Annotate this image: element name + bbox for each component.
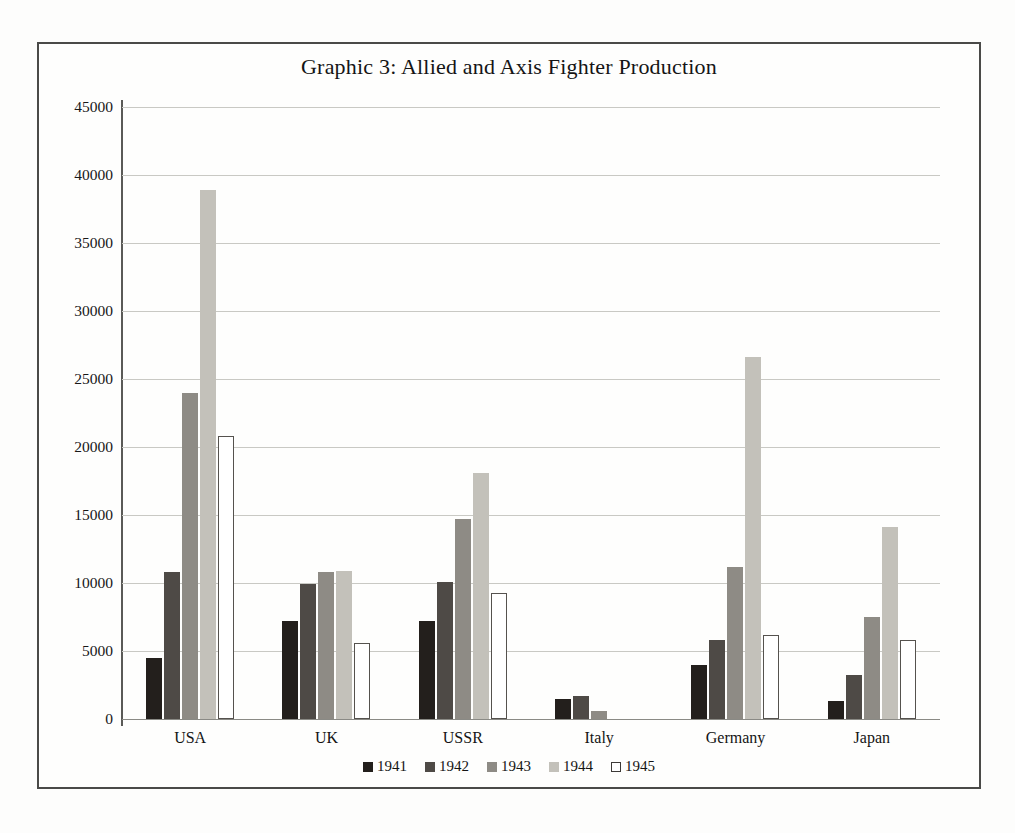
bar-uk-1942[interactable] (300, 584, 316, 719)
chart-legend: 19411942194319441945 (39, 758, 979, 775)
bar-uk-1941[interactable] (282, 621, 298, 719)
legend-item-1944[interactable]: 1944 (549, 758, 593, 775)
legend-label: 1944 (563, 758, 593, 775)
bar-usa-1943[interactable] (182, 393, 198, 719)
legend-swatch-icon (549, 762, 559, 772)
plot-area: USAUKUSSRItalyGermanyJapan (122, 107, 940, 719)
bar-uk-1944[interactable] (336, 571, 352, 719)
bar-japan-1943[interactable] (864, 617, 880, 719)
bar-group-germany: Germany (667, 107, 803, 719)
legend-swatch-icon (487, 762, 497, 772)
bar-germany-1945[interactable] (763, 635, 779, 719)
bar-italy-1943[interactable] (591, 711, 607, 719)
bar-usa-1941[interactable] (146, 658, 162, 719)
legend-item-1945[interactable]: 1945 (611, 758, 655, 775)
y-axis-tick-label: 40000 (74, 166, 113, 184)
y-axis-tick-label: 15000 (74, 506, 113, 524)
bar-group-japan: Japan (804, 107, 940, 719)
y-axis-tick-label: 0 (105, 710, 113, 728)
bar-ussr-1945[interactable] (491, 593, 507, 719)
bar-ussr-1944[interactable] (473, 473, 489, 719)
bar-germany-1944[interactable] (745, 357, 761, 719)
legend-item-1942[interactable]: 1942 (425, 758, 469, 775)
bars (531, 107, 667, 719)
bars (667, 107, 803, 719)
bar-germany-1943[interactable] (727, 567, 743, 719)
bar-japan-1941[interactable] (828, 701, 844, 719)
bar-germany-1942[interactable] (709, 640, 725, 719)
bar-ussr-1942[interactable] (437, 582, 453, 719)
legend-label: 1941 (377, 758, 407, 775)
legend-item-1943[interactable]: 1943 (487, 758, 531, 775)
bar-ussr-1943[interactable] (455, 519, 471, 719)
bars (258, 107, 394, 719)
legend-swatch-icon (611, 762, 621, 772)
legend-label: 1945 (625, 758, 655, 775)
y-axis-tick-label: 25000 (74, 370, 113, 388)
bars (122, 107, 258, 719)
x-axis-category-label: USA (122, 729, 258, 747)
y-axis-tick-label: 35000 (74, 234, 113, 252)
x-axis-category-label: Japan (804, 729, 940, 747)
legend-swatch-icon (363, 762, 373, 772)
bar-italy-1941[interactable] (555, 699, 571, 719)
x-axis-category-label: UK (258, 729, 394, 747)
bar-japan-1944[interactable] (882, 527, 898, 719)
legend-label: 1943 (501, 758, 531, 775)
x-axis-category-label: USSR (395, 729, 531, 747)
y-axis-tick-labels: 4500040000350003000025000200001500010000… (39, 107, 113, 719)
bar-uk-1945[interactable] (354, 643, 370, 719)
bars (804, 107, 940, 719)
legend-swatch-icon (425, 762, 435, 772)
bar-group-italy: Italy (531, 107, 667, 719)
y-axis-tick-label: 10000 (74, 574, 113, 592)
chart-title: Graphic 3: Allied and Axis Fighter Produ… (39, 54, 979, 80)
bar-usa-1944[interactable] (200, 190, 216, 719)
bar-usa-1945[interactable] (218, 436, 234, 719)
bar-germany-1941[interactable] (691, 665, 707, 719)
bar-uk-1943[interactable] (318, 572, 334, 719)
chart-frame: Graphic 3: Allied and Axis Fighter Produ… (37, 42, 981, 789)
bars (395, 107, 531, 719)
x-axis-category-label: Italy (531, 729, 667, 747)
y-axis-tick-label: 20000 (74, 438, 113, 456)
gridline (122, 719, 940, 720)
bar-japan-1942[interactable] (846, 675, 862, 719)
bar-group-uk: UK (258, 107, 394, 719)
x-axis-category-label: Germany (667, 729, 803, 747)
bar-group-usa: USA (122, 107, 258, 719)
bar-japan-1945[interactable] (900, 640, 916, 719)
y-axis-tick-label: 5000 (82, 642, 113, 660)
bar-ussr-1941[interactable] (419, 621, 435, 719)
bar-italy-1942[interactable] (573, 696, 589, 719)
y-axis-tick-label: 30000 (74, 302, 113, 320)
legend-label: 1942 (439, 758, 469, 775)
y-axis-tick-label: 45000 (74, 98, 113, 116)
bar-group-ussr: USSR (395, 107, 531, 719)
bar-usa-1942[interactable] (164, 572, 180, 719)
legend-item-1941[interactable]: 1941 (363, 758, 407, 775)
